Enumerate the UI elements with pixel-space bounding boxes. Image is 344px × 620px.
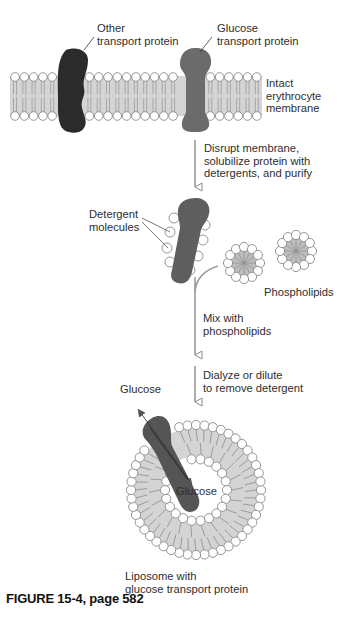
label-glucose-inside: Glucose [176, 485, 217, 498]
phospholipid-micelles [223, 230, 316, 283]
label-step2: Mix with phospholipids [203, 312, 271, 337]
label-line: Other [97, 22, 178, 35]
label-step3: Dialyze or dilute to remove detergent [203, 369, 303, 394]
label-glucose-outside: Glucose [120, 383, 161, 396]
label-line: transport protein [97, 35, 178, 48]
label-detergent-molecules: Detergent molecules [89, 208, 139, 233]
label-line: molecules [89, 221, 139, 234]
solubilized-protein [142, 198, 210, 283]
label-line: Intact [266, 77, 321, 90]
label-other-transport-protein: Other transport protein [97, 22, 178, 47]
label-step1: Disrupt membrane, solubilize protein wit… [204, 142, 312, 180]
label-line: Dialyze or dilute [203, 369, 303, 382]
figure-diagram: Other transport protein Glucose transpor… [0, 0, 344, 620]
label-line: Liposome with [125, 570, 248, 583]
figure-caption: FIGURE 15-4, page 582 [6, 591, 143, 606]
label-line: Detergent [89, 208, 139, 221]
other-transport-protein [58, 48, 88, 132]
label-line: Mix with [203, 312, 271, 325]
intact-membrane [10, 73, 262, 121]
label-intact-membrane: Intact erythrocyte membrane [266, 77, 321, 115]
label-line: transport protein [217, 35, 298, 48]
label-liposome: Liposome with glucose transport protein [125, 570, 248, 595]
label-line: erythrocyte [266, 90, 321, 103]
label-line: membrane [266, 102, 321, 115]
label-line: to remove detergent [203, 382, 303, 395]
label-glucose-transport-protein: Glucose transport protein [217, 22, 298, 47]
label-line: glucose transport protein [125, 583, 248, 596]
label-line: Disrupt membrane, [204, 142, 312, 155]
label-line: phospholipids [203, 325, 271, 338]
label-line: Glucose [217, 22, 298, 35]
label-line: detergents, and purify [204, 167, 312, 180]
label-line: solubilize protein with [204, 155, 312, 168]
label-phospholipids: Phospholipids [264, 286, 334, 299]
